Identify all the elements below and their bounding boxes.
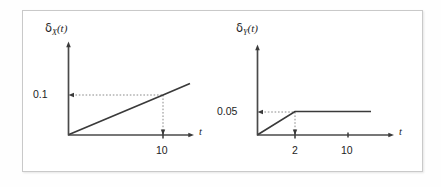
left-y-axis-arrowhead (66, 42, 71, 48)
right-x-tick-label-2: 2 (292, 145, 298, 156)
chart-delta-x (66, 42, 194, 139)
right-x-axis-arrowhead (388, 133, 394, 138)
right-y-axis-arrowhead (255, 45, 260, 51)
left-y-axis-title-delta: δ (45, 21, 52, 35)
right-x-tick-label-10: 10 (341, 145, 353, 156)
right-x-axis-label-t: t (399, 127, 402, 138)
left-x-axis-label-t: t (199, 127, 202, 138)
left-y-tick-label-0-1: 0.1 (33, 89, 48, 100)
right-y-tick-label-0-05: 0.05 (217, 106, 237, 117)
left-x-tick-label-10: 10 (156, 145, 168, 156)
figure-root: δX(t) 0.1 10 t δY(t) 0.05 2 10 t (0, 0, 441, 187)
right-y-axis-title: δY(t) (236, 23, 258, 37)
left-y-axis-title: δX(t) (45, 23, 67, 37)
right-data-series-line (258, 112, 371, 135)
right-y-axis-title-argument: (t) (248, 22, 258, 34)
left-y-axis-title-argument: (t) (57, 22, 67, 34)
chart-delta-y (255, 45, 394, 139)
left-x-axis-arrowhead (188, 133, 194, 138)
right-y-axis-title-delta: δ (236, 21, 243, 35)
left-data-series-line (69, 84, 190, 135)
